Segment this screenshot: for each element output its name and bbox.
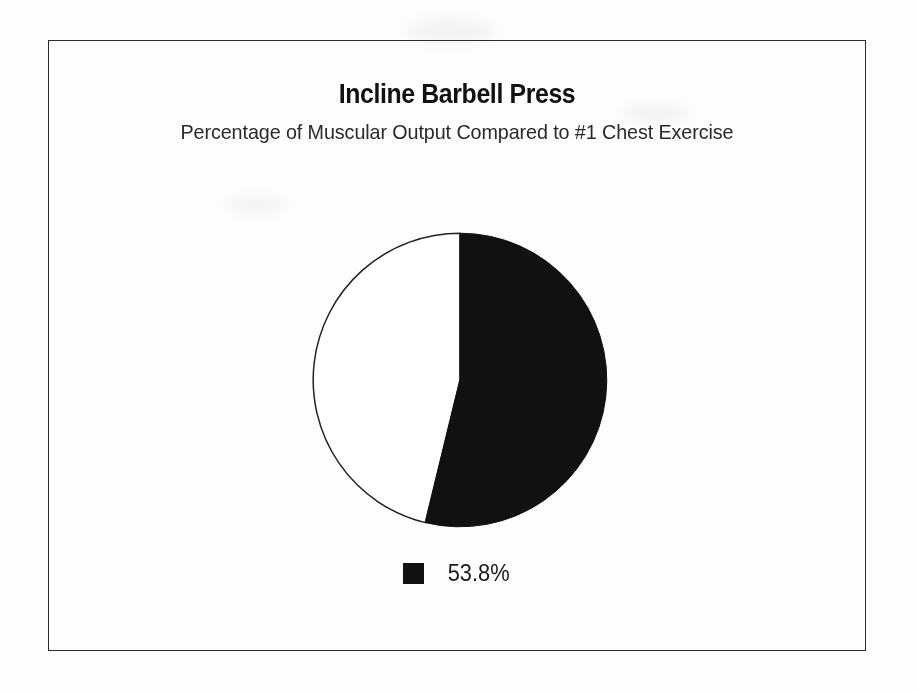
pie-chart xyxy=(312,232,608,528)
pie-chart-svg xyxy=(312,232,608,528)
legend-item-label: 53.8% xyxy=(448,562,510,585)
filled-square-icon xyxy=(403,563,424,584)
chart-frame: Incline Barbell Press Percentage of Musc… xyxy=(48,40,866,651)
page-title: Incline Barbell Press xyxy=(82,81,833,108)
legend-item: 53.8% xyxy=(403,562,511,585)
chart-legend: 53.8% xyxy=(49,562,865,585)
chart-subtitle: Percentage of Muscular Output Compared t… xyxy=(73,121,840,142)
scanned-page: Incline Barbell Press Percentage of Musc… xyxy=(0,0,917,692)
